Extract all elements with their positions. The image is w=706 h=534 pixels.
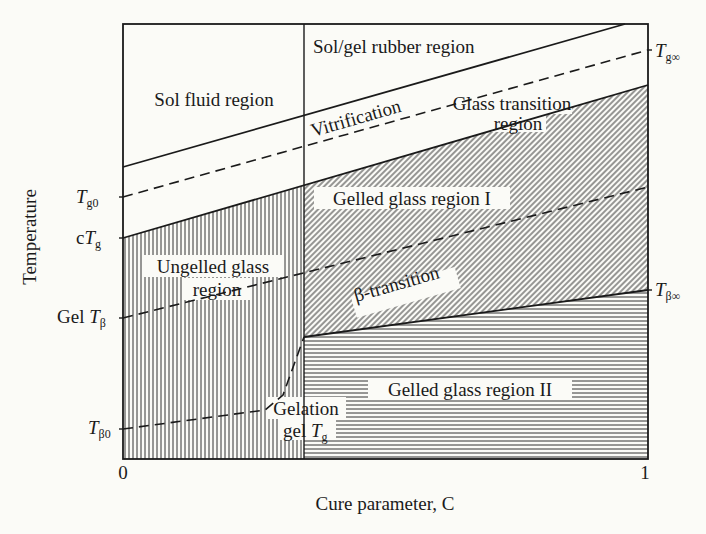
gel-tbeta-label: Gel Tβ (57, 306, 106, 330)
x-tick-0: 0 (118, 462, 128, 483)
ungelled-glass-label: Ungelled glass (157, 256, 269, 277)
tbeta-infinity-label: Tβ∞ (655, 279, 680, 303)
glass-transition-label: Glass transition (453, 93, 572, 114)
tbeta0-label: Tβ0 (88, 417, 111, 441)
ctg-label: cTg (76, 227, 101, 251)
tg-infinity-label: Tg∞ (655, 40, 680, 64)
cure-diagram: Sol fluid region Sol/gel rubber region V… (0, 0, 706, 534)
x-axis-label: Cure parameter, C (315, 493, 454, 514)
gelation-label: Gelation (273, 398, 339, 419)
x-tick-1: 1 (640, 462, 650, 483)
glass-transition-region-label: region (494, 113, 543, 134)
ungelled-region-label: region (193, 279, 242, 300)
sol-gel-rubber-label: Sol/gel rubber region (313, 36, 475, 57)
gelled-glass-region-2-label: Gelled glass region II (388, 379, 552, 400)
gelled-glass-region-1-label: Gelled glass region I (333, 188, 491, 209)
vitrification-label: Vitrification (308, 95, 403, 141)
gelation-gel-tg-label: gel Tg (283, 420, 328, 444)
y-axis-label: Temperature (19, 189, 40, 285)
sol-fluid-label: Sol fluid region (154, 89, 274, 110)
tg0-label: Tg0 (76, 186, 99, 210)
